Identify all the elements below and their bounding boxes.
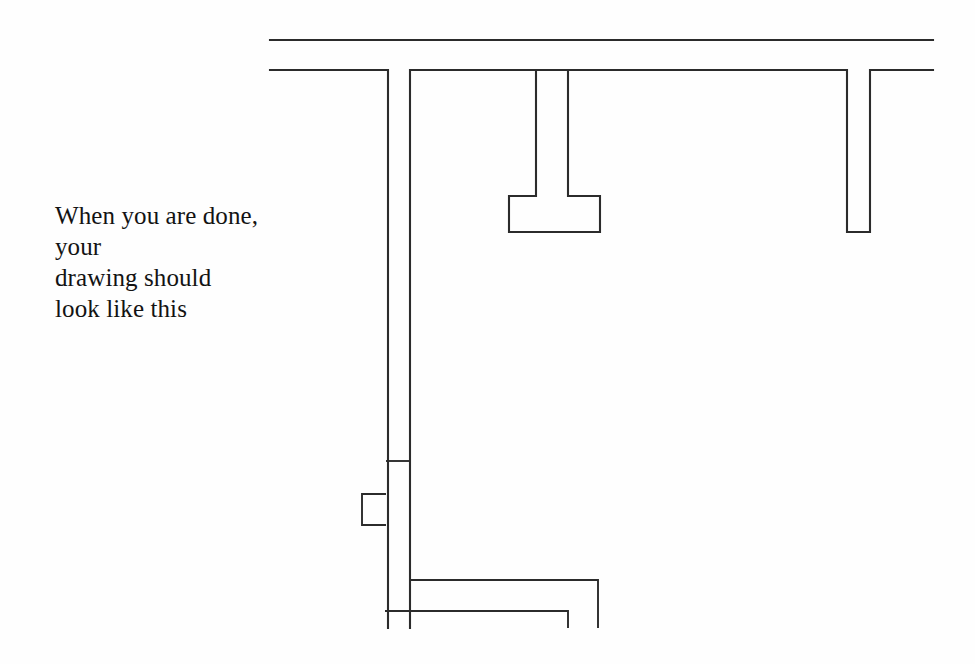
drawing-canvas: When you are done, your drawing should l… [0, 0, 975, 664]
instruction-caption: When you are done, your drawing should l… [55, 200, 265, 324]
main-profile-outline [270, 70, 933, 628]
lower-left-notch [362, 494, 386, 525]
lower-lower-shelf [385, 611, 568, 628]
profile-line-drawing [0, 0, 975, 664]
lower-upper-shelf [410, 580, 598, 628]
